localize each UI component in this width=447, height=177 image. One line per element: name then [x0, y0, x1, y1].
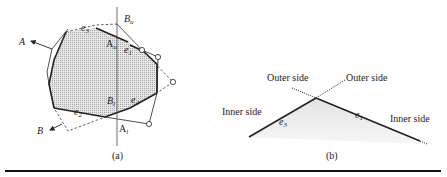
vertex-circle [170, 79, 175, 84]
label-outer-side-left: Outer side [267, 72, 309, 83]
label-Bu: Bu [124, 13, 134, 26]
caption-a: (a) [112, 150, 123, 162]
vertex-circle [146, 121, 151, 126]
direction-arrow-B [50, 124, 62, 130]
label-B: B [37, 125, 43, 136]
caption-b: (b) [326, 150, 338, 162]
outer-extension-right [316, 80, 345, 98]
label-inner-side-left: Inner side [222, 106, 262, 117]
label-inner-side-right: Inner side [390, 113, 430, 124]
figure-a: A B Bu Au Bl Al e3 e1 e2 e4 (a) [18, 7, 176, 162]
outer-extension-left [292, 88, 316, 98]
vertex-circle [139, 47, 144, 52]
label-outer-side-right: Outer side [346, 72, 388, 83]
label-A: A [18, 36, 26, 47]
label-Al: Al [119, 123, 128, 136]
shaded-polygon [49, 28, 157, 117]
figure-b: Outer side Outer side Inner side Inner s… [222, 72, 430, 162]
vertex-circle [155, 54, 160, 59]
direction-arrow-A [31, 41, 52, 49]
figure-canvas: A B Bu Au Bl Al e3 e1 e2 e4 (a) Outer si… [0, 0, 447, 177]
